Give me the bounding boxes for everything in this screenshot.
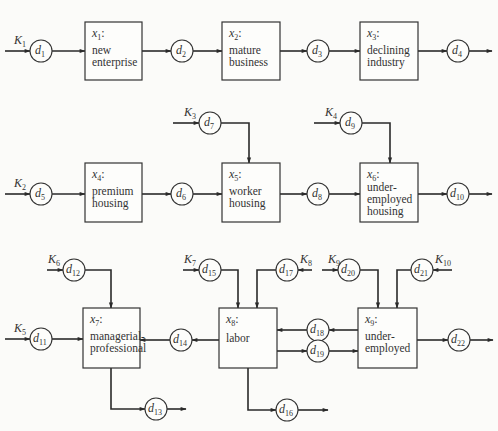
input-label: K4: [324, 105, 337, 121]
input-K6: K6: [47, 252, 60, 268]
node-d16: d16: [276, 399, 298, 421]
box-x5: x5:workerhousing: [222, 163, 280, 222]
box-label-line: under-: [367, 181, 397, 193]
box-label-line: housing: [229, 197, 266, 210]
box-x3: x3:decliningindustry: [360, 22, 418, 80]
node-d4: d4: [447, 40, 469, 62]
box-label-line: worker: [229, 185, 262, 197]
node-d14: d14: [170, 329, 192, 351]
node-d5: d5: [30, 183, 52, 205]
box-label-line: enterprise: [92, 56, 137, 69]
node-d19: d19: [307, 340, 329, 362]
box-label-line: mature: [229, 44, 261, 56]
flow-diagram: x1:newenterprisex2:maturebusinessx3:decl…: [0, 0, 498, 431]
node-d21: d21: [411, 259, 433, 281]
input-label: K5: [13, 321, 26, 337]
box-label-line: employed: [365, 342, 411, 355]
input-K5: K5: [13, 321, 26, 337]
box-x7: x7:managerial-professional: [83, 308, 146, 368]
box-label-line: housing: [92, 197, 129, 210]
input-label: K2: [13, 176, 26, 192]
box-x8: x8:labor: [219, 308, 277, 368]
node-d20: d20: [338, 259, 360, 281]
input-K1: K1: [13, 33, 26, 49]
input-K8: K8: [299, 252, 312, 268]
node-d13: d13: [145, 398, 167, 420]
input-label: K3: [183, 105, 196, 121]
node-d10: d10: [447, 183, 469, 205]
node-d8: d8: [307, 183, 329, 205]
input-label: K6: [47, 252, 60, 268]
input-label: K8: [299, 252, 312, 268]
input-K3: K3: [183, 105, 196, 121]
node-d6: d6: [171, 183, 193, 205]
box-label-line: under-: [365, 330, 395, 342]
box-x6: x6:under-employedhousing: [360, 163, 418, 222]
node-d12: d12: [63, 259, 85, 281]
node-d3: d3: [307, 40, 329, 62]
node-d9: d9: [340, 112, 362, 134]
node-d2: d2: [171, 40, 193, 62]
box-label-line: new: [92, 44, 112, 56]
node-d15: d15: [199, 259, 221, 281]
input-K2: K2: [13, 176, 26, 192]
box-label-line: labor: [226, 332, 250, 344]
input-label: K1: [13, 33, 26, 49]
input-K4: K4: [324, 105, 337, 121]
box-label-line: industry: [367, 56, 405, 69]
box-label-line: professional: [90, 342, 146, 355]
node-d22: d22: [448, 329, 470, 351]
node-d17: d17: [276, 259, 298, 281]
input-label: K7: [183, 252, 196, 268]
node-d7: d7: [199, 112, 221, 134]
node-d11: d11: [30, 328, 52, 350]
box-label-line: housing: [367, 205, 404, 218]
input-K9: K9: [327, 252, 340, 268]
box-x9: x9:under-employed: [358, 308, 417, 368]
box-x1: x1:newenterprise: [85, 22, 142, 80]
node-d18: d18: [307, 319, 329, 341]
box-x2: x2:maturebusiness: [222, 22, 280, 80]
input-label: K10: [434, 252, 451, 268]
input-K7: K7: [183, 252, 196, 268]
input-K10: K10: [434, 252, 451, 268]
box-x4: x4:premiumhousing: [85, 163, 142, 222]
node-d1: d1: [30, 40, 52, 62]
input-label: K9: [327, 252, 340, 268]
box-label-line: business: [229, 56, 269, 68]
